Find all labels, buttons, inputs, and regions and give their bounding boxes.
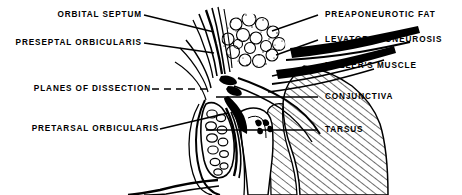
label-orbital-septum: ORBITAL SEPTUM [57,11,142,19]
label-tarsus: TARSUS [325,126,363,134]
label-mullers-muscle: MULLER'S MUSCLE [325,62,417,70]
label-conjunctiva: CONJUNCTIVA [325,93,393,101]
label-pretarsal-orbicularis: PRETARSAL ORBICULARIS [32,125,159,133]
label-preseptal-orbicularis: PRESEPTAL ORBICULARIS [16,39,142,47]
label-preaponeurotic-fat: PREAPONEUROTIC FAT [325,11,436,19]
label-levator-aponeurosis: LEVATOR APONEUROSIS [325,36,442,44]
label-planes-of-dissection: PLANES OF DISSECTION [34,85,151,93]
